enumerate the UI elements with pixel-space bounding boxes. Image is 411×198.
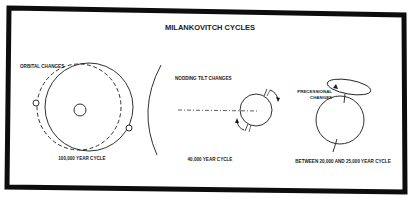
precession-cycle-label: BETWEEN 20,000 AND 25,000 YEAR CYCLE <box>295 159 390 164</box>
diagram-canvas: MILANKOVITCH CYCLES ORBITAL CHANGES 100,… <box>0 0 411 198</box>
planet-right-icon <box>126 125 132 131</box>
axis-top-stub <box>264 89 267 96</box>
sun-earth-axis-line <box>178 110 258 111</box>
tilt-cycle-label: 40,000 YEAR CYCLE <box>188 157 233 162</box>
milankovitch-diagram: MILANKOVITCH CYCLES ORBITAL CHANGES 100,… <box>0 0 411 198</box>
tilt-arrowhead-bottom <box>235 118 239 123</box>
precession-panel: PRECESSIONAL CHANGES BETWEEN 20,000 AND … <box>295 76 390 164</box>
orbital-panel: ORBITAL CHANGES 100,000 YEAR CYCLE <box>20 63 133 161</box>
precession-axis-top <box>344 94 345 103</box>
precession-orbit-icon <box>326 76 372 97</box>
orbit-solid-icon <box>45 63 133 151</box>
orbital-label: ORBITAL CHANGES <box>20 64 64 69</box>
axis-bottom-stub-2 <box>249 125 251 132</box>
sun-arc-icon <box>148 65 161 155</box>
frame-border <box>7 8 405 192</box>
earth-tilt-icon <box>240 94 272 126</box>
axis-top-stub-2 <box>267 90 270 96</box>
earth-precession-icon <box>316 96 364 144</box>
precession-arrowhead <box>333 84 338 89</box>
precession-label-line1: PRECESSIONAL <box>297 89 332 94</box>
tilt-label: NODDING TILT CHANGES <box>175 76 232 81</box>
tilt-panel: NODDING TILT CHANGES 40,000 YEAR CYCLE <box>148 65 280 162</box>
orbital-cycle-label: 100,000 YEAR CYCLE <box>58 156 105 161</box>
diagram-title: MILANKOVITCH CYCLES <box>165 23 255 32</box>
precession-axis-bottom <box>333 139 337 152</box>
sun-icon <box>74 104 86 116</box>
planet-left-icon <box>33 100 39 106</box>
tilt-arrowhead-top <box>276 97 280 102</box>
axis-bottom-stub <box>245 124 248 131</box>
